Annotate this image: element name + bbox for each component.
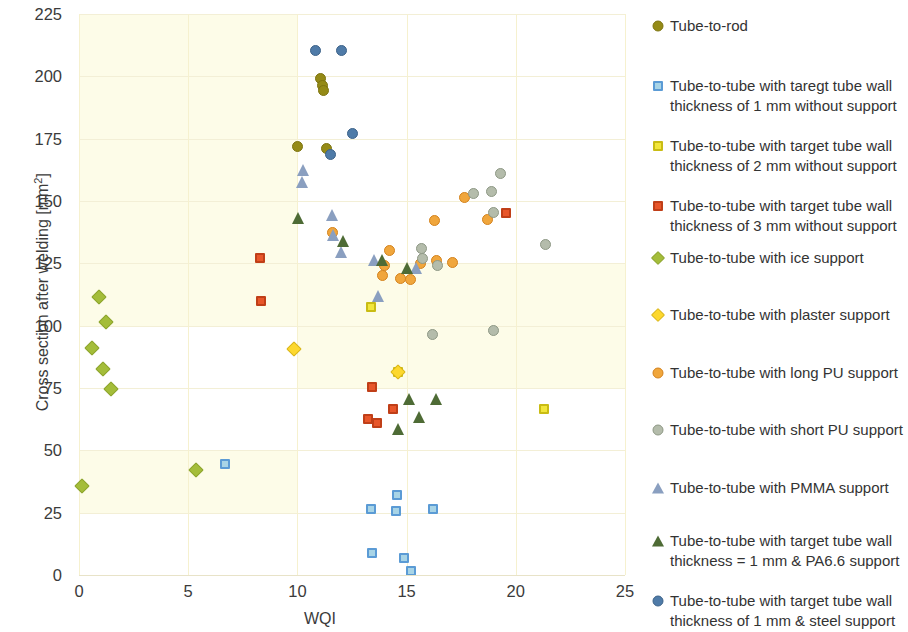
data-point	[392, 423, 404, 435]
data-point	[447, 257, 458, 268]
legend-marker-glyph	[652, 483, 664, 494]
legend-item[interactable]: Tube-to-tube with PMMA support	[648, 478, 908, 498]
blue-triangle-marker-icon	[648, 479, 668, 497]
legend-item-label: Tube-to-tube with plaster support	[668, 305, 890, 325]
legend-item[interactable]: Tube-to-tube with target tube wall thick…	[648, 136, 908, 176]
data-point	[540, 239, 551, 250]
data-point	[326, 209, 338, 221]
y-axis-title: Cross section after welding [mm2]	[32, 32, 52, 552]
x-tick-label: 10	[288, 582, 306, 601]
data-point	[325, 149, 336, 160]
legend-item-label: Tube-to-tube with PMMA support	[668, 478, 889, 498]
data-point	[413, 411, 425, 423]
legend-item-label: Tube-to-tube with target tube wall thick…	[668, 136, 908, 176]
data-point	[366, 302, 376, 312]
legend-item[interactable]: Tube-to-tube with plaster support	[648, 305, 908, 325]
x-tick-label: 15	[397, 582, 415, 601]
data-point	[372, 418, 382, 428]
horizontal-gridline	[79, 450, 625, 451]
y-axis-title-superscript: 2	[32, 178, 44, 184]
data-point	[256, 296, 266, 306]
legend-item-label: Tube-to-tube with short PU support	[668, 420, 903, 440]
vertical-gridline	[625, 14, 626, 575]
legend-marker-glyph	[653, 596, 664, 607]
data-point	[416, 243, 427, 254]
legend-marker-glyph	[653, 425, 664, 436]
data-point	[428, 504, 438, 514]
horizontal-gridline	[79, 201, 625, 202]
legend-item-label: Tube-to-tube with target tube wall thick…	[668, 591, 908, 631]
chart-area: 2252001751501251007550250 0510152025 WQI…	[0, 0, 640, 632]
legend-marker-glyph	[653, 201, 663, 211]
horizontal-gridline	[79, 326, 625, 327]
data-point	[335, 246, 347, 258]
data-point	[292, 212, 304, 224]
data-point	[430, 393, 442, 405]
legend-item[interactable]: Tube-to-rod	[648, 16, 908, 36]
legend-item[interactable]: Tube-to-tube with target tube wall thick…	[648, 591, 908, 631]
yellow-diamond-marker-icon	[648, 306, 668, 324]
data-point	[336, 45, 347, 56]
x-axis-tick-labels: 0510152025	[0, 582, 640, 608]
y-axis-title-main: Cross section after welding [mm	[34, 184, 51, 412]
legend-item-label: Tube-to-tube with target tube wall thick…	[668, 196, 908, 236]
legend-marker-glyph	[653, 368, 664, 379]
data-point	[367, 548, 377, 558]
legend-marker-glyph	[651, 308, 665, 322]
legend-item[interactable]: Tube-to-tube with target tube wall thick…	[648, 196, 908, 236]
data-point	[392, 490, 402, 500]
vertical-gridline	[188, 14, 189, 575]
yellow-square-marker-icon	[648, 137, 668, 155]
data-point	[103, 381, 119, 397]
x-tick-label: 20	[507, 582, 525, 601]
data-point	[297, 164, 309, 176]
horizontal-gridline	[79, 14, 625, 15]
blue-circle-marker-icon	[648, 592, 668, 610]
y-axis-title-tail: ]	[34, 173, 51, 177]
horizontal-gridline	[79, 76, 625, 77]
data-point	[403, 393, 415, 405]
orange-circle-marker-icon	[648, 364, 668, 382]
horizontal-gridline	[79, 513, 625, 514]
data-point	[367, 382, 377, 392]
data-point	[388, 404, 398, 414]
x-axis-title: WQI	[0, 610, 640, 628]
legend-item[interactable]: Tube-to-tube with taregt tube wall thick…	[648, 76, 908, 116]
legend-item-label: Tube-to-rod	[668, 16, 748, 36]
data-point	[255, 253, 265, 263]
legend-item[interactable]: Tube-to-tube with long PU support	[648, 363, 908, 383]
data-point	[432, 260, 443, 271]
vertical-gridline	[297, 14, 298, 575]
x-axis-line	[79, 575, 625, 576]
legend-item[interactable]: Tube-to-tube with short PU support	[648, 420, 908, 440]
data-point	[399, 553, 409, 563]
vertical-gridline	[407, 14, 408, 575]
x-tick-label: 25	[616, 582, 634, 601]
dark-green-triangle-marker-icon	[648, 532, 668, 550]
data-point	[347, 128, 358, 139]
plot-region	[79, 14, 625, 575]
data-point	[95, 362, 111, 378]
legend-marker-glyph	[652, 536, 664, 547]
filled-circle-marker-icon	[648, 17, 668, 35]
data-point	[366, 504, 376, 514]
green-diamond-marker-icon	[648, 249, 668, 267]
data-point	[395, 273, 406, 284]
legend-item[interactable]: Tube-to-tube with target tube wall thick…	[648, 531, 908, 571]
data-point	[318, 85, 329, 96]
legend-item[interactable]: Tube-to-tube with ice support	[648, 248, 908, 268]
data-point	[337, 235, 349, 247]
legend-marker-glyph	[653, 81, 663, 91]
data-point	[376, 254, 388, 266]
chart-legend: Tube-to-rodTube-to-tube with taregt tube…	[648, 0, 908, 632]
y-tick-label: 225	[34, 5, 62, 24]
data-point	[429, 215, 440, 226]
data-point	[486, 186, 497, 197]
legend-item-label: Tube-to-tube with long PU support	[668, 363, 898, 383]
gray-circle-marker-icon	[648, 421, 668, 439]
red-square-marker-icon	[648, 197, 668, 215]
data-point	[468, 188, 479, 199]
data-point	[372, 290, 384, 302]
vertical-gridline	[516, 14, 517, 575]
data-point	[220, 459, 230, 469]
